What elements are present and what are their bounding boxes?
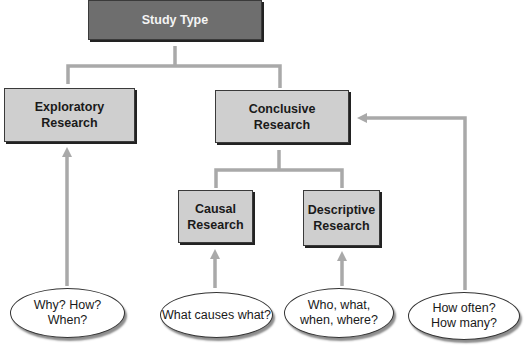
causal-questions-label: What causes what? — [162, 308, 271, 323]
descriptive-questions-label: Who, what, when, where? — [300, 298, 378, 328]
study-type-diagram: Study Type Exploratory Research Conclusi… — [0, 0, 524, 346]
causal-questions-ellipse: What causes what? — [160, 292, 273, 338]
exploratory-research-label: Exploratory Research — [35, 99, 104, 131]
exploratory-research-box: Exploratory Research — [4, 88, 135, 142]
conclusive-questions-label: How often? How many? — [431, 301, 497, 331]
descriptive-questions-ellipse: Who, what, when, where? — [284, 288, 394, 338]
descriptive-research-label: Descriptive Research — [308, 202, 375, 234]
study-type-label: Study Type — [142, 12, 208, 28]
conclusive-questions-ellipse: How often? How many? — [408, 292, 520, 340]
causal-research-label: Causal Research — [187, 201, 243, 233]
exploratory-questions-ellipse: Why? How? When? — [10, 288, 125, 338]
conclusive-research-label: Conclusive Research — [249, 101, 316, 133]
exploratory-questions-label: Why? How? When? — [34, 298, 101, 328]
causal-research-box: Causal Research — [178, 190, 253, 243]
conclusive-research-box: Conclusive Research — [215, 90, 349, 143]
descriptive-research-box: Descriptive Research — [303, 190, 380, 246]
study-type-box: Study Type — [88, 0, 262, 40]
